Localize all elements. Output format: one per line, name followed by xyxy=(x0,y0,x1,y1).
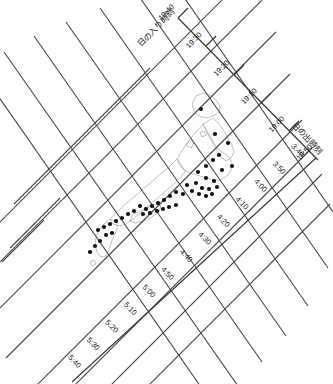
data-point xyxy=(167,205,171,209)
data-point xyxy=(207,187,211,191)
data-point xyxy=(220,168,224,172)
sunrise-tick-label: 4:10 xyxy=(234,195,251,212)
data-point xyxy=(161,207,165,211)
data-point xyxy=(168,194,172,198)
data-point xyxy=(108,222,112,226)
data-point xyxy=(230,164,234,168)
data-point xyxy=(174,190,178,194)
data-point xyxy=(210,192,214,196)
sunrise-tick-label: 4:30 xyxy=(196,230,213,247)
sunrise-tick-label: 4:20 xyxy=(215,212,232,229)
data-point xyxy=(212,179,216,183)
data-point xyxy=(132,209,136,213)
data-point xyxy=(204,176,208,180)
data-point xyxy=(226,141,230,145)
data-point xyxy=(199,107,203,111)
data-point xyxy=(217,153,221,157)
data-point xyxy=(138,204,142,208)
data-point xyxy=(190,189,194,193)
data-point xyxy=(215,185,219,189)
data-point xyxy=(141,212,145,216)
data-point xyxy=(211,158,215,162)
data-point xyxy=(200,186,204,190)
oblique-grid-scatter-plot: 19:4019:3019:2019:1019:0018:50 3:403:504… xyxy=(0,0,333,384)
data-point xyxy=(196,170,200,174)
sunrise-tick-label-group: 3:403:504:004:104:204:304:404:505:005:10… xyxy=(66,142,306,370)
sunrise-tick-label: 3:50 xyxy=(271,159,288,176)
sunrise-tick-label: 5:40 xyxy=(66,353,83,370)
data-point xyxy=(93,244,97,248)
data-point xyxy=(194,181,198,185)
data-point xyxy=(204,164,208,168)
data-point xyxy=(104,233,108,237)
data-point xyxy=(126,212,130,216)
figure-canvas: 19:4019:3019:2019:1019:0018:50 3:403:504… xyxy=(0,0,333,384)
data-point xyxy=(162,198,166,202)
data-point xyxy=(156,201,160,205)
data-point xyxy=(185,183,189,187)
sunset-axis xyxy=(178,8,318,160)
data-point xyxy=(102,225,106,229)
data-point-group xyxy=(88,107,234,254)
data-point xyxy=(181,192,185,196)
sunset-axis-title: 日の入り時刻 xyxy=(136,7,177,48)
data-point xyxy=(204,194,208,198)
grid-outer-rays xyxy=(2,68,150,262)
sunrise-tick-label: 5:20 xyxy=(103,318,120,335)
data-point xyxy=(110,231,114,235)
data-point xyxy=(197,192,201,196)
data-point xyxy=(150,204,154,208)
sunrise-tick-label: 4:50 xyxy=(159,265,176,282)
sunrise-tick-label: 5:30 xyxy=(85,335,102,352)
sunrise-tick-label: 5:00 xyxy=(141,283,158,300)
data-point xyxy=(120,216,124,220)
data-point xyxy=(148,211,152,215)
data-point xyxy=(88,250,92,254)
data-point xyxy=(98,239,102,243)
data-point xyxy=(155,209,159,213)
data-point xyxy=(114,219,118,223)
data-point xyxy=(213,132,217,136)
data-point xyxy=(96,228,100,232)
data-point xyxy=(144,207,148,211)
sunrise-tick-label: 5:10 xyxy=(122,300,139,317)
grid-family-sunrise xyxy=(0,0,333,384)
data-point xyxy=(174,203,178,207)
